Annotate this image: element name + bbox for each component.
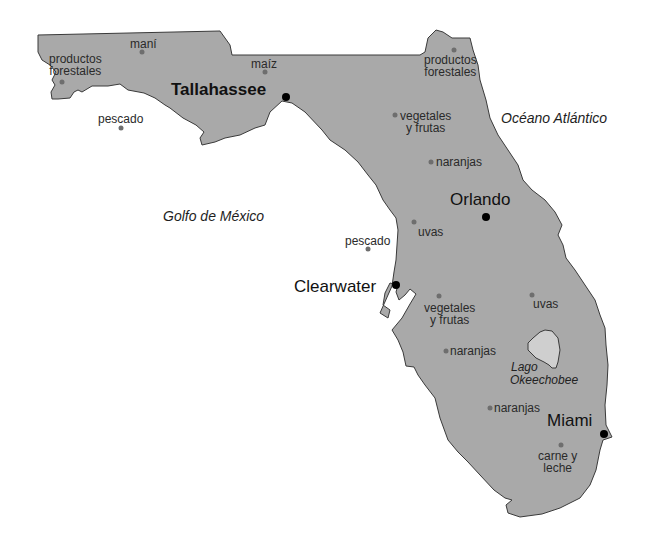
label-line2: forestales bbox=[424, 66, 477, 78]
florida-landmass bbox=[38, 30, 612, 517]
city-dot-clearwater bbox=[392, 281, 400, 289]
city-dot-orlando bbox=[482, 213, 490, 221]
product-dot-vegetales-south bbox=[437, 294, 442, 299]
label-city-miami: Miami bbox=[547, 412, 592, 429]
product-dot-naranjas-south bbox=[488, 406, 493, 411]
label-line2: forestales bbox=[49, 65, 102, 77]
product-dot-naranjas-central bbox=[444, 349, 449, 354]
city-dot-miami bbox=[600, 430, 608, 438]
label-gulf-of-mexico: Golfo de México bbox=[163, 209, 264, 223]
label-product-uvas-east: uvas bbox=[533, 298, 558, 310]
label-product-forestales-ne: productos forestales bbox=[424, 54, 477, 78]
label-city-tallahassee: Tallahassee bbox=[171, 81, 266, 98]
product-dot-uvas-west bbox=[412, 220, 417, 225]
label-product-carne-leche: carne y leche bbox=[538, 450, 577, 474]
label-lake-line1: Lago bbox=[511, 361, 538, 373]
label-product-maiz: maíz bbox=[251, 58, 277, 70]
label-line2: y frutas bbox=[424, 314, 475, 326]
product-dot-vegetales-north bbox=[393, 113, 398, 118]
label-product-mani: maní bbox=[130, 38, 157, 50]
city-dot-tallahassee bbox=[282, 93, 290, 101]
product-dot-pescado-panhandle bbox=[119, 126, 124, 131]
product-dot-forestales-ne bbox=[452, 48, 457, 53]
label-product-pescado-panhandle: pescado bbox=[98, 113, 143, 125]
label-atlantic-ocean: Océano Atlántico bbox=[501, 111, 607, 125]
florida-map: Golfo de México Océano Atlántico Lago Ok… bbox=[0, 0, 653, 535]
label-city-orlando: Orlando bbox=[450, 191, 510, 208]
label-lake-line2: Okeechobee bbox=[510, 374, 578, 386]
product-dot-carne-leche bbox=[559, 443, 564, 448]
label-product-pescado-gulf: pescado bbox=[345, 235, 390, 247]
product-dot-naranjas-north bbox=[429, 160, 434, 165]
label-line2: y frutas bbox=[400, 122, 451, 134]
product-dot-forestales-nw bbox=[60, 80, 65, 85]
label-city-clearwater: Clearwater bbox=[294, 278, 376, 295]
label-product-vegetales-north: vegetales y frutas bbox=[400, 110, 451, 134]
label-line2: leche bbox=[538, 462, 577, 474]
label-product-forestales-nw: productos forestales bbox=[49, 53, 102, 77]
label-product-vegetales-south: vegetales y frutas bbox=[424, 302, 475, 326]
label-product-naranjas-south: naranjas bbox=[494, 402, 540, 414]
label-product-naranjas-north: naranjas bbox=[436, 156, 482, 168]
label-product-naranjas-central: naranjas bbox=[450, 345, 496, 357]
label-product-uvas-west: uvas bbox=[418, 226, 443, 238]
